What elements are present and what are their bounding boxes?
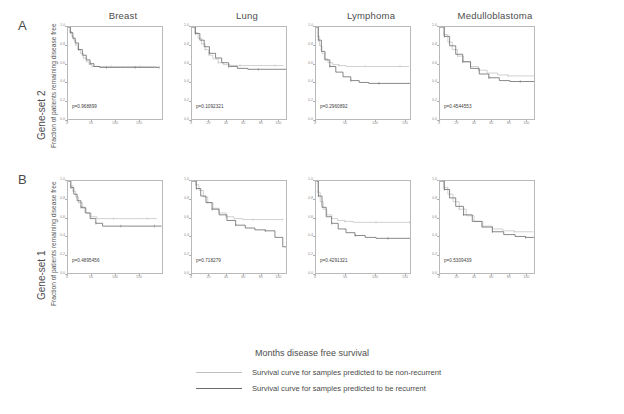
y-tick-label: 0.2: [55, 253, 65, 257]
y-tick-label: 0.4: [303, 80, 313, 84]
x-tick-label: 50: [338, 276, 352, 280]
survival-curve-recurrent: [316, 27, 411, 83]
survival-curve-non-recurrent: [68, 27, 157, 66]
y-tick-label: 0.8: [427, 43, 437, 47]
p-value-label: p=0.718279: [196, 258, 221, 263]
km-plot-b-breast: 0.00.20.40.60.81.0050100150p=0.4895456: [55, 176, 165, 288]
y-tick-label: 0.6: [427, 62, 437, 66]
x-tick-mark: [226, 120, 227, 122]
x-tick-label: 40: [467, 276, 481, 280]
km-plot-a-medulloblastoma: 0.00.20.40.60.81.0020406080100p=0.454455…: [427, 22, 537, 134]
x-tick-label: 150: [132, 276, 146, 280]
y-tick-label: 0.2: [303, 99, 313, 103]
x-tick-mark: [474, 274, 475, 276]
x-tick-mark: [278, 120, 279, 122]
x-tick-mark: [67, 120, 68, 122]
panel-letter-a: A: [18, 18, 27, 33]
x-tick-label: 150: [398, 122, 412, 126]
column-title-breast: Breast: [63, 10, 183, 21]
legend-swatch-recurrent: [196, 388, 242, 389]
x-tick-label: 40: [219, 122, 233, 126]
x-tick-label: 0: [184, 122, 198, 126]
survival-curve-non-recurrent: [440, 27, 534, 76]
x-tick-label: 60: [484, 122, 498, 126]
legend-swatch-non-recurrent: [196, 372, 242, 373]
x-tick-mark: [491, 120, 492, 122]
legend-label-recurrent: Survival curve for samples predicted to …: [252, 384, 426, 393]
x-tick-mark: [208, 274, 209, 276]
kaplan-meier-figure: A B Breast Lung Lymphoma Medulloblastoma…: [0, 0, 624, 414]
y-tick-label: 0.8: [55, 43, 65, 47]
x-tick-mark: [509, 120, 510, 122]
y-tick-label: 0.2: [179, 99, 189, 103]
x-tick-label: 80: [502, 122, 516, 126]
y-tick-label: 1.0: [427, 178, 437, 182]
y-tick-label: 1.0: [303, 24, 313, 28]
p-value-label: p=0.4291321: [320, 258, 348, 263]
x-tick-label: 0: [60, 276, 74, 280]
y-tick-label: 1.0: [303, 178, 313, 182]
y-tick-label: 0.8: [303, 197, 313, 201]
y-tick-label: 1.0: [55, 178, 65, 182]
x-tick-label: 40: [467, 122, 481, 126]
x-tick-mark: [405, 274, 406, 276]
y-tick-label: 0.4: [427, 80, 437, 84]
km-plot-a-lymphoma: 0.00.20.40.60.81.0050100150p=0.2960892: [303, 22, 413, 134]
survival-curve-recurrent: [68, 181, 162, 226]
x-tick-mark: [261, 120, 262, 122]
y-tick-label: 0.6: [303, 62, 313, 66]
y-tick-label: 0.4: [55, 80, 65, 84]
x-tick-mark: [91, 120, 92, 122]
x-tick-label: 100: [519, 276, 533, 280]
x-tick-label: 0: [432, 122, 446, 126]
y-tick-label: 0.6: [55, 216, 65, 220]
x-tick-label: 100: [271, 122, 285, 126]
x-tick-label: 20: [201, 122, 215, 126]
x-tick-label: 50: [84, 276, 98, 280]
x-tick-label: 150: [132, 122, 146, 126]
x-tick-label: 100: [368, 122, 382, 126]
y-tick-label: 0.4: [303, 234, 313, 238]
x-tick-mark: [208, 120, 209, 122]
y-tick-label: 1.0: [179, 24, 189, 28]
p-value-label: p=0.968899: [72, 104, 97, 109]
x-tick-mark: [91, 274, 92, 276]
y-tick-label: 0.2: [55, 99, 65, 103]
x-tick-mark: [474, 120, 475, 122]
x-tick-label: 60: [484, 276, 498, 280]
survival-curve-recurrent: [192, 181, 287, 254]
y-tick-label: 1.0: [179, 178, 189, 182]
y-tick-label: 0.2: [303, 253, 313, 257]
panel-letter-b: B: [18, 172, 27, 187]
km-plot-b-lymphoma: 0.00.20.40.60.81.0050100150p=0.4291321: [303, 176, 413, 288]
x-tick-label: 20: [449, 276, 463, 280]
survival-curve-recurrent: [440, 181, 534, 237]
x-tick-label: 0: [60, 122, 74, 126]
x-tick-label: 20: [449, 122, 463, 126]
x-tick-label: 20: [201, 276, 215, 280]
y-tick-label: 0.6: [427, 216, 437, 220]
x-tick-mark: [456, 274, 457, 276]
column-title-lung: Lung: [187, 10, 307, 21]
km-plot-a-breast: 0.00.20.40.60.81.0050100150p=0.968899: [55, 22, 165, 134]
x-tick-mark: [405, 120, 406, 122]
p-value-label: p=0.1092321: [196, 104, 224, 109]
legend: Survival curve for samples predicted to …: [0, 364, 624, 396]
x-tick-label: 0: [184, 276, 198, 280]
y-tick-label: 0.4: [179, 80, 189, 84]
x-tick-label: 50: [338, 122, 352, 126]
x-tick-mark: [439, 120, 440, 122]
km-plot-a-lung: 0.00.20.40.60.81.0020406080100p=0.109232…: [179, 22, 289, 134]
x-tick-mark: [375, 120, 376, 122]
x-tick-mark: [67, 274, 68, 276]
x-tick-mark: [526, 120, 527, 122]
row-label-gene-set-1: Gene-set 1: [36, 251, 47, 300]
x-tick-label: 150: [398, 276, 412, 280]
x-tick-mark: [191, 274, 192, 276]
x-tick-label: 0: [308, 276, 322, 280]
x-tick-mark: [526, 274, 527, 276]
y-tick-label: 1.0: [55, 24, 65, 28]
x-tick-label: 60: [236, 122, 250, 126]
x-tick-label: 60: [236, 276, 250, 280]
legend-label-non-recurrent: Survival curve for samples predicted to …: [252, 368, 441, 377]
